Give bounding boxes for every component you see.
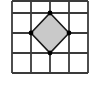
diamond-right-vertex-marker (67, 31, 72, 36)
diamond-left-vertex-marker (29, 31, 34, 36)
figure-canvas (0, 0, 94, 89)
diamond-top-vertex-marker (48, 11, 53, 16)
grid-diamond-figure (0, 0, 94, 89)
diamond-bottom-vertex-marker (48, 51, 53, 56)
